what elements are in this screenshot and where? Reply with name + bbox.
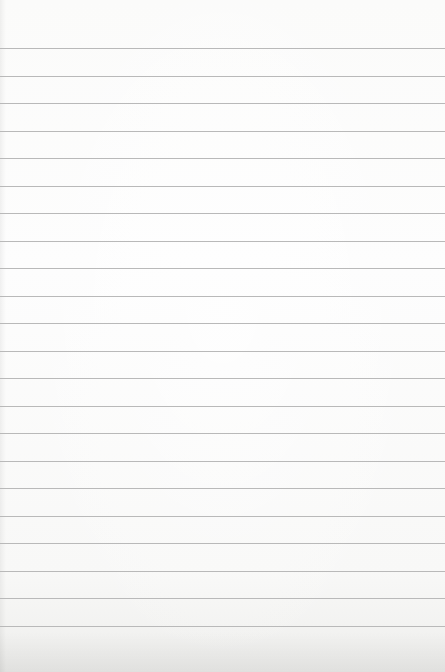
ruled-line: [0, 598, 445, 599]
ruled-line: [0, 351, 445, 352]
ruled-line: [0, 268, 445, 269]
ruled-line: [0, 378, 445, 379]
ruled-line: [0, 571, 445, 572]
ruled-line: [0, 296, 445, 297]
ruled-line: [0, 433, 445, 434]
ruled-line: [0, 323, 445, 324]
ruled-line: [0, 241, 445, 242]
ruled-line: [0, 406, 445, 407]
ruled-line: [0, 488, 445, 489]
ruled-line: [0, 131, 445, 132]
faint-show-through-text: [0, 2, 445, 12]
ruled-line: [0, 186, 445, 187]
ruled-line: [0, 103, 445, 104]
ruled-line: [0, 543, 445, 544]
ruled-line: [0, 516, 445, 517]
ruled-line: [0, 213, 445, 214]
ruled-line: [0, 461, 445, 462]
ruled-line: [0, 626, 445, 627]
lined-paper-sheet: [0, 0, 445, 672]
ruled-line: [0, 158, 445, 159]
paper-bottom-shadow: [0, 632, 445, 672]
ruled-line: [0, 76, 445, 77]
ruled-line: [0, 48, 445, 49]
